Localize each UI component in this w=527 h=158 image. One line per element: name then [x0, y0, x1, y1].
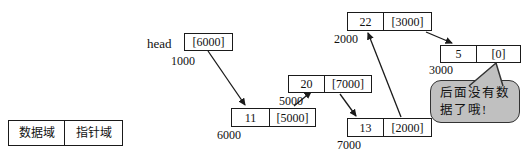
node-6000-pointer-cell: [5000]	[270, 109, 315, 126]
node-2000: 22 [3000]	[347, 12, 432, 31]
node-3000-address-label: 3000	[429, 64, 453, 76]
arrow-node5000-to-node7000	[340, 94, 356, 116]
node-7000-pointer-cell: [2000]	[384, 119, 431, 136]
arrow-node7000-to-node2000	[368, 33, 401, 117]
head-pointer-value: [6000]	[185, 34, 232, 50]
head-label: head	[147, 37, 172, 50]
node-7000: 13 [2000]	[347, 118, 432, 137]
callout-text-line2: 据了哦!	[440, 102, 519, 119]
node-2000-data-cell: 22	[348, 13, 384, 30]
node-3000-pointer-cell: [0]	[477, 46, 520, 62]
legend-pointer-field-label: 指针域	[65, 121, 122, 145]
legend-node-structure: 数据域 指针域	[8, 120, 123, 146]
node-5000-address-label: 5000	[279, 95, 303, 107]
node-5000-pointer-cell: [7000]	[325, 76, 371, 92]
legend-data-field-label: 数据域	[9, 121, 65, 145]
head-pointer-box: [6000]	[184, 33, 233, 51]
callout-bubble: 后面没有数 据了哦!	[430, 80, 520, 123]
node-6000: 11 [5000]	[231, 108, 316, 127]
node-6000-address-label: 6000	[217, 129, 241, 141]
callout-text-line1: 后面没有数	[440, 85, 519, 102]
node-2000-pointer-cell: [3000]	[384, 13, 431, 30]
arrow-head-to-node6000	[208, 51, 245, 105]
node-6000-data-cell: 11	[232, 109, 270, 126]
node-7000-data-cell: 13	[348, 119, 384, 136]
linked-list-diagram: 数据域 指针域 head [6000] 1000 11 [5000] 6000 …	[0, 0, 527, 158]
node-3000-data-cell: 5	[441, 46, 477, 62]
head-address-label: 1000	[171, 55, 195, 67]
node-7000-address-label: 7000	[337, 139, 361, 151]
node-2000-address-label: 2000	[334, 33, 358, 45]
node-3000: 5 [0]	[440, 45, 521, 63]
node-5000: 20 [7000]	[288, 75, 372, 93]
node-5000-data-cell: 20	[289, 76, 325, 92]
arrow-node2000-to-node3000	[426, 32, 452, 43]
